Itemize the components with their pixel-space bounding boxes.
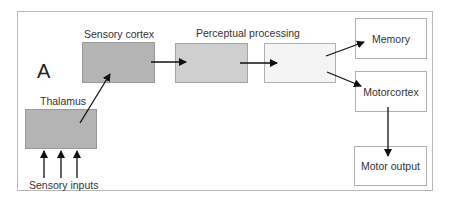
sensory-input-arrows bbox=[44, 151, 77, 178]
arrow-thalamus-to-sensory-cortex bbox=[80, 74, 110, 123]
arrow-post-to-memory bbox=[326, 42, 364, 56]
arrows-layer bbox=[0, 0, 451, 204]
arrow-post-to-motorcortex bbox=[327, 72, 361, 86]
